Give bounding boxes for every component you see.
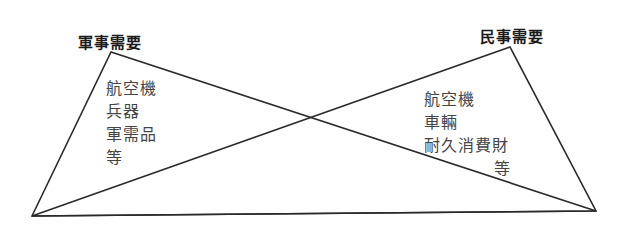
- military-item: 軍需品: [106, 123, 157, 146]
- military-item: 航空機: [106, 77, 157, 100]
- civilian-item: 耐久消費財: [424, 134, 511, 157]
- military-demand-title: 軍事需要: [78, 31, 142, 52]
- military-item: 兵器: [106, 100, 157, 123]
- civilian-item: 車輛: [424, 111, 511, 134]
- military-demand-items: 航空機 兵器 軍需品 等: [106, 77, 157, 169]
- civilian-demand-title: 民事需要: [480, 25, 544, 46]
- military-item: 等: [106, 146, 157, 169]
- civilian-demand-items: 航空機 車輛 耐久消費財 等: [424, 88, 511, 180]
- civilian-item: 等: [424, 157, 511, 180]
- civilian-item: 航空機: [424, 88, 511, 111]
